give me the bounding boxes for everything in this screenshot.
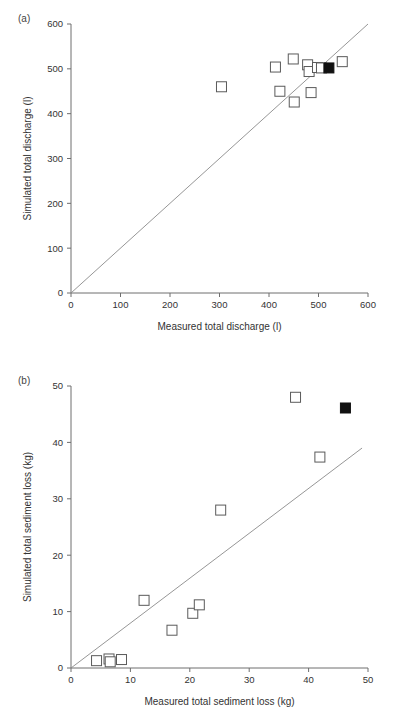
y-tick-label-b-2: 20 bbox=[52, 550, 63, 561]
x-tick-label-a-3: 300 bbox=[212, 299, 228, 310]
y-tick-label-b-5: 50 bbox=[52, 380, 63, 391]
x-tick-label-a-4: 400 bbox=[261, 299, 277, 310]
x-tick-label-a-0: 0 bbox=[68, 299, 73, 310]
data-point-a-s0-7 bbox=[306, 88, 316, 98]
figure-two-panel-scatter: (a)0100200300400500600010020030040050060… bbox=[0, 0, 409, 727]
x-tick-label-b-4: 40 bbox=[303, 674, 314, 685]
data-point-b-s0-9 bbox=[291, 392, 301, 402]
data-point-b-s0-0 bbox=[92, 656, 102, 666]
y-tick-label-b-4: 40 bbox=[52, 437, 63, 448]
data-point-b-s0-4 bbox=[139, 595, 149, 605]
data-point-b-s0-7 bbox=[194, 600, 204, 610]
x-axis-title-b: Measured total sediment loss (kg) bbox=[144, 696, 294, 707]
y-tick-label-b-0: 0 bbox=[58, 662, 63, 673]
x-tick-label-b-1: 10 bbox=[125, 674, 136, 685]
x-tick-label-b-3: 30 bbox=[244, 674, 255, 685]
data-point-a-s0-2 bbox=[275, 86, 285, 96]
data-point-a-s0-1 bbox=[270, 62, 280, 72]
panel-label-b: (b) bbox=[18, 375, 30, 386]
y-tick-label-a-3: 300 bbox=[47, 153, 63, 164]
panel-label-a: (a) bbox=[18, 13, 30, 24]
y-tick-label-a-0: 0 bbox=[58, 287, 63, 298]
data-point-a-s0-0 bbox=[216, 82, 226, 92]
y-tick-label-a-4: 400 bbox=[47, 108, 63, 119]
data-point-b-s1-0 bbox=[340, 403, 350, 413]
data-point-b-s0-2 bbox=[105, 657, 115, 667]
x-tick-label-a-1: 100 bbox=[113, 299, 129, 310]
data-point-b-s0-10 bbox=[315, 452, 325, 462]
y-tick-label-b-3: 30 bbox=[52, 493, 63, 504]
data-point-a-s1-0 bbox=[324, 63, 334, 73]
y-tick-label-a-2: 200 bbox=[47, 198, 63, 209]
data-point-a-s0-10 bbox=[337, 57, 347, 67]
data-point-b-s0-5 bbox=[167, 625, 177, 635]
x-tick-label-b-2: 20 bbox=[185, 674, 196, 685]
panel-a: (a)0100200300400500600010020030040050060… bbox=[0, 0, 409, 364]
x-tick-label-b-5: 50 bbox=[363, 674, 374, 685]
reference-line-b bbox=[71, 448, 362, 668]
x-axis-title-a: Measured total discharge (l) bbox=[158, 321, 282, 332]
y-tick-label-a-1: 100 bbox=[47, 243, 63, 254]
data-point-a-s0-3 bbox=[288, 54, 298, 64]
x-tick-label-b-0: 0 bbox=[68, 674, 73, 685]
y-tick-label-b-1: 10 bbox=[52, 606, 63, 617]
x-tick-label-a-6: 600 bbox=[360, 299, 376, 310]
y-axis-title-b: Simulated total sediment loss (kg) bbox=[22, 452, 33, 602]
y-tick-label-a-5: 500 bbox=[47, 63, 63, 74]
data-point-b-s0-8 bbox=[216, 505, 226, 515]
panel-b: (b)0102030405001020304050Measured total … bbox=[0, 363, 409, 727]
data-point-a-s0-4 bbox=[289, 97, 299, 107]
plot-a: (a)0100200300400500600010020030040050060… bbox=[0, 0, 409, 364]
y-tick-label-a-6: 600 bbox=[47, 18, 63, 29]
plot-b: (b)0102030405001020304050Measured total … bbox=[0, 363, 409, 727]
y-axis-title-a: Simulated total discharge (l) bbox=[22, 97, 33, 221]
x-tick-label-a-5: 500 bbox=[311, 299, 327, 310]
data-point-b-s0-3 bbox=[116, 655, 126, 665]
x-tick-label-a-2: 200 bbox=[162, 299, 178, 310]
